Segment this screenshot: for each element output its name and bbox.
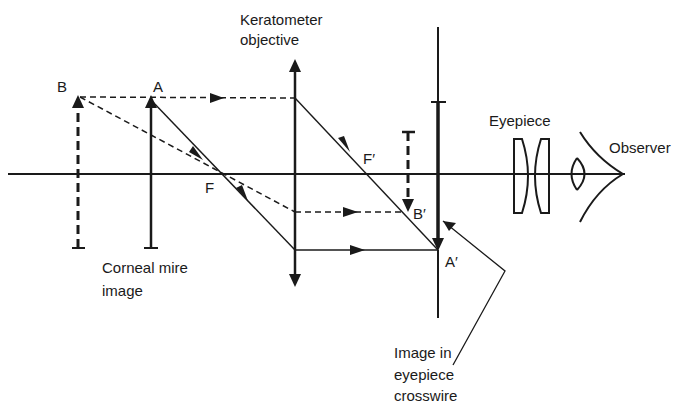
ray-paths <box>80 93 505 365</box>
label-crosswire-1: Image in <box>394 344 452 361</box>
label-image-a-prime: A′ <box>445 253 458 270</box>
object-b-arrow <box>72 95 85 248</box>
object-a-arrow <box>144 95 158 248</box>
label-eyepiece: Eyepiece <box>489 112 551 129</box>
label-focus-f-prime: F′ <box>363 150 375 167</box>
keratometer-diagram: B A F F′ B′ A′ Keratometer objective Eye… <box>0 0 689 406</box>
eyepiece-crosswire <box>431 27 446 318</box>
label-observer: Observer <box>609 139 671 156</box>
label-crosswire-3: crosswire <box>394 387 457 404</box>
label-keratometer-objective-1: Keratometer <box>240 11 323 28</box>
label-image-b-prime: B′ <box>413 205 426 222</box>
label-corneal-mire-2: image <box>102 282 143 299</box>
label-keratometer-objective-2: objective <box>240 31 299 48</box>
label-focus-f: F <box>205 179 214 196</box>
eyepiece-lenses <box>514 139 549 213</box>
label-corneal-mire-1: Corneal mire <box>102 259 188 276</box>
label-point-a: A <box>153 78 163 95</box>
image-b-prime-arrow <box>402 132 415 212</box>
label-crosswire-2: eyepiece <box>394 366 454 383</box>
label-point-b: B <box>57 78 67 95</box>
